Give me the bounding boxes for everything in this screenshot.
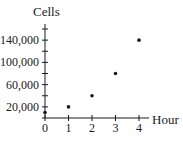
y-tick-label: 100,000 [0,55,39,69]
x-tick-label: 4 [136,121,142,135]
y-tick-label: 60,000 [6,78,39,92]
x-axis-label: Hour [152,112,179,127]
data-point [137,38,141,42]
data-point [43,111,47,115]
x-tick-label: 0 [42,121,48,135]
x-tick-label: 3 [113,121,119,135]
data-point [90,94,94,98]
data-point [114,72,118,76]
y-axis-ticks: 20,00060,000100,000140,000 [0,29,48,114]
scatter-chart: 20,00060,000100,000140,000 01234 Cells H… [0,0,183,142]
y-tick-label: 140,000 [0,33,39,47]
x-tick-label: 2 [89,121,95,135]
x-tick-label: 1 [66,121,72,135]
y-tick-label: 20,000 [6,100,39,114]
data-points [43,38,141,114]
data-point [67,105,71,109]
axes [42,24,149,118]
y-axis-label: Cells [33,4,60,19]
